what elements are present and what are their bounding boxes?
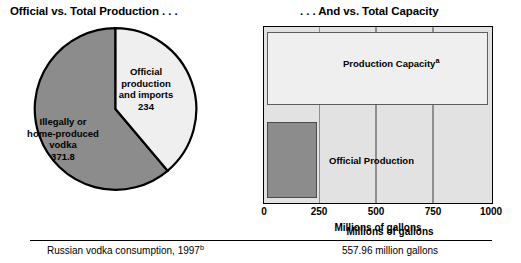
pie-label-illegal: Illegally orhome-producedvodka371.8 — [15, 116, 111, 162]
right-panel-title: . . . And vs. Total Capacity — [300, 5, 438, 17]
footnote-marker-a: a — [435, 56, 439, 65]
left-panel-title: Official vs. Total Production . . . — [10, 5, 178, 17]
bar-chart — [263, 26, 493, 204]
x-tick-500: 500 — [362, 206, 390, 217]
footer-row-label-text: Russian vodka consumption, 1997 — [47, 245, 200, 256]
bar-label-production-capacity: Production Capacitya — [343, 58, 439, 69]
x-tick-0: 0 — [258, 206, 270, 217]
bar-official-production — [267, 122, 317, 198]
footer-row-label: Russian vodka consumption, 1997b — [47, 245, 204, 256]
x-tick-250: 250 — [305, 206, 333, 217]
footer-row-value: 557.96 million gallons — [300, 245, 480, 256]
x-tick-750: 750 — [419, 206, 447, 217]
bar-label-production-capacity-text: Production Capacity — [343, 58, 435, 69]
footer-divider — [30, 240, 492, 241]
pie-label-official: Officialproductionand imports234 — [108, 66, 184, 112]
bar-chart-plot-area — [263, 26, 493, 204]
bar-label-official-production: Official Production — [329, 155, 414, 166]
x-tick-1000: 1000 — [473, 206, 509, 217]
footer-column-header: Millions of gallons — [300, 226, 480, 237]
footnote-marker-b: b — [200, 243, 204, 252]
